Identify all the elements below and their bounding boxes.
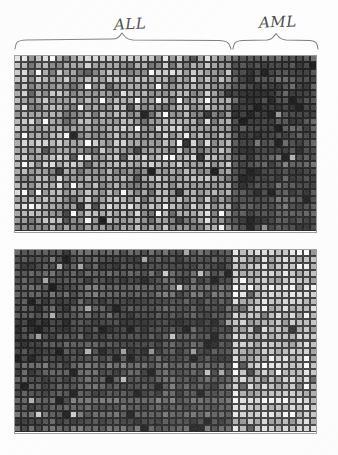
class-label-aml: AML [259,12,297,32]
heatmap-figure: ALL AML [0,0,338,455]
class-label-band: ALL AML [0,0,338,52]
heatmap-panel-bottom [14,249,317,434]
heatmap-canvas-top [14,55,317,231]
class-brace-icon [0,30,338,52]
heatmap-panel-top [14,55,317,233]
heatmap-canvas-bottom [14,249,317,432]
